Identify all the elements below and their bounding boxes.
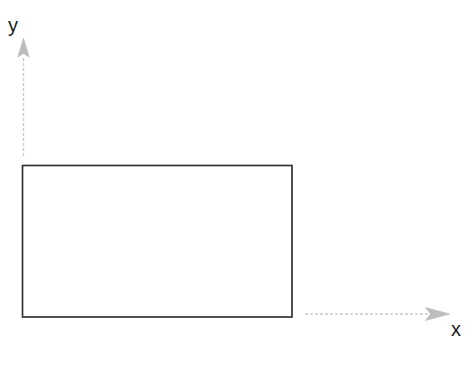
figure-canvas: y x [0, 0, 473, 383]
geometry-figure [0, 0, 473, 383]
rectangle [23, 166, 293, 318]
arrow-up-icon [18, 38, 29, 57]
x-axis-label: x [451, 319, 461, 339]
arrow-right-icon [426, 308, 451, 321]
y-axis-label: y [8, 15, 18, 35]
